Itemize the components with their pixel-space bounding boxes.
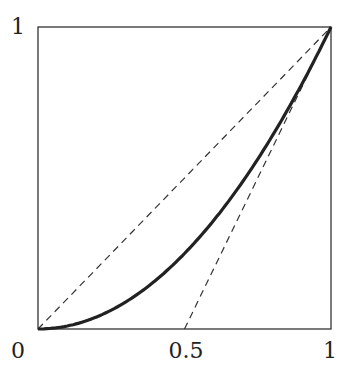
x-tick-0: 0: [11, 338, 25, 363]
plot-area: [0, 0, 353, 377]
x-tick-0-5: 0.5: [169, 338, 204, 363]
diagonal-dashed-line: [38, 27, 331, 329]
x-tick-1: 1: [323, 338, 337, 363]
y-tick-1: 1: [11, 14, 25, 39]
